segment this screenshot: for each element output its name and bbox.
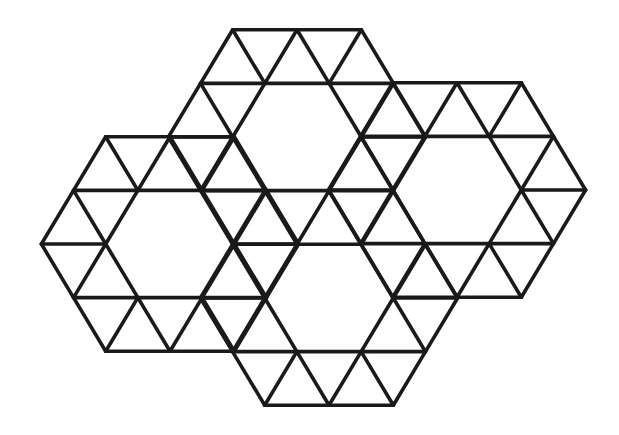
triangle-edge [106,244,138,298]
triangle-edge [393,191,425,245]
triangle-edge [74,244,106,298]
triangle-edge [521,190,553,244]
triangle-edge [489,136,521,190]
triangle-edge [328,190,360,244]
triangle-edge [553,190,585,244]
triangle-edge [489,83,521,137]
triangle-edge [489,244,521,298]
triangle-edge [553,136,585,190]
triangle-edge [329,83,361,137]
triangle-tiling-figure [0,0,619,435]
triangle-edge [233,352,265,406]
triangle-edge [202,190,234,244]
triangle-edge [234,137,266,191]
triangle-edge [138,137,170,191]
triangle-edge [74,190,106,244]
triangle-edge [234,190,266,244]
triangle-edge [200,244,232,298]
triangle-edge [521,244,553,298]
triangle-edge [328,136,360,190]
triangle-edge [361,244,393,298]
triangle-edge [138,298,170,352]
triangle-edge [170,137,202,191]
triangle-edge [233,298,265,352]
triangle-edge [265,298,297,352]
bottom-ring [200,191,457,405]
triangle-edge [233,244,265,298]
triangle-edge [361,83,393,137]
triangle-edge [266,190,298,244]
triangle-edge [74,137,106,191]
triangle-edge [361,30,393,84]
triangle-edge [457,83,489,137]
diagram-canvas [0,0,619,435]
triangle-edge [297,191,329,245]
triangle-edge [361,298,393,352]
triangle-edge [489,190,521,244]
triangle-edge [170,298,202,352]
triangle-edge [201,30,233,84]
right-ring [328,83,585,297]
triangle-edge [297,30,329,84]
triangle-edge [521,83,553,137]
triangle-edge [106,298,138,352]
triangle-edge [361,352,393,406]
triangle-edge [361,136,393,190]
triangle-edge [265,30,297,84]
triangle-edge [233,83,265,137]
triangle-edge [361,190,393,244]
triangle-edge [457,244,489,298]
triangle-edge [297,352,329,406]
triangle-edge [425,298,457,352]
triangle-edge [329,30,361,84]
triangle-edge [425,244,457,298]
triangle-edge [521,136,553,190]
triangle-edge [393,298,425,352]
triangle-edge [329,352,361,406]
left-ring [41,137,298,351]
triangle-edge [106,137,138,191]
triangle-edge [393,244,425,298]
triangle-edge [41,190,73,244]
triangle-edge [201,83,233,137]
triangle-edge [106,190,138,244]
triangle-edge [265,352,297,406]
triangle-edge [200,298,232,352]
triangle-edge [74,298,106,352]
triangle-edge [393,83,425,137]
triangle-edge [233,30,265,84]
triangle-edge [41,244,73,298]
triangle-edge [202,137,234,191]
triangle-edge [393,136,425,190]
triangle-edge [393,352,425,406]
triangle-edge [168,83,200,137]
triangle-edge [425,83,457,137]
triangle-edge [265,244,297,298]
